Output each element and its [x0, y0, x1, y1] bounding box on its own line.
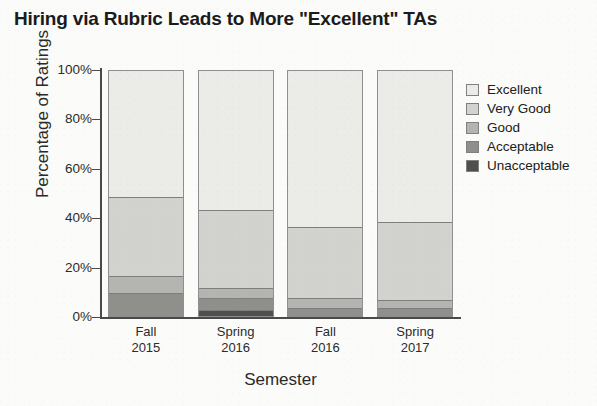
bar-segment-acceptable[interactable]: [109, 294, 183, 316]
bar-segment-very-good[interactable]: [378, 223, 452, 301]
bar-segment-excellent[interactable]: [109, 71, 183, 198]
bar-segment-excellent[interactable]: [288, 71, 362, 228]
x-axis-line: [100, 317, 461, 319]
bar-segment-good[interactable]: [109, 277, 183, 294]
stacked-bar[interactable]: [198, 70, 274, 317]
bar-segment-acceptable[interactable]: [288, 309, 362, 316]
legend-label: Acceptable: [487, 139, 554, 154]
bar-segment-very-good[interactable]: [288, 228, 362, 299]
y-axis-tick-label: 40%: [46, 210, 92, 225]
y-axis-tick-label: 100%: [46, 62, 92, 77]
bar-segment-acceptable[interactable]: [378, 309, 452, 316]
bar-segment-good[interactable]: [288, 299, 362, 309]
legend-swatch-unacceptable: [466, 160, 479, 172]
legend-label: Excellent: [487, 82, 542, 97]
legend-item[interactable]: Excellent: [466, 80, 570, 99]
y-axis-tick: [92, 268, 100, 269]
chart-title: Hiring via Rubric Leads to More "Excelle…: [14, 8, 437, 30]
x-axis-tick-label: Spring2017: [360, 324, 470, 356]
y-axis-tick: [92, 317, 100, 318]
bar-segment-unacceptable[interactable]: [199, 311, 273, 316]
plot-area: [101, 70, 460, 317]
legend-swatch-acceptable: [466, 141, 479, 153]
legend-swatch-very-good: [466, 103, 479, 115]
y-axis-tick: [92, 70, 100, 71]
legend-item[interactable]: Acceptable: [466, 137, 570, 156]
chart-figure: Hiring via Rubric Leads to More "Excelle…: [0, 0, 597, 406]
bar-segment-very-good[interactable]: [199, 211, 273, 289]
legend: ExcellentVery GoodGoodAcceptableUnaccept…: [466, 80, 570, 175]
y-axis-tick-label: 0%: [46, 309, 92, 324]
y-axis-tick: [92, 119, 100, 120]
y-axis-tick-label: 80%: [46, 111, 92, 126]
legend-item[interactable]: Unacceptable: [466, 156, 570, 175]
legend-label: Good: [487, 120, 520, 135]
stacked-bar[interactable]: [377, 70, 453, 317]
y-axis-tick-label: 20%: [46, 260, 92, 275]
bar-segment-good[interactable]: [199, 289, 273, 299]
legend-label: Unacceptable: [487, 158, 570, 173]
legend-item[interactable]: Good: [466, 118, 570, 137]
x-axis-title: Semester: [101, 370, 460, 390]
bar-segment-very-good[interactable]: [109, 198, 183, 276]
legend-label: Very Good: [487, 101, 551, 116]
bar-segment-good[interactable]: [378, 301, 452, 308]
legend-swatch-good: [466, 122, 479, 134]
bar-segment-acceptable[interactable]: [199, 299, 273, 311]
y-axis-tick-label: 60%: [46, 161, 92, 176]
legend-swatch-excellent: [466, 84, 479, 96]
bar-segment-excellent[interactable]: [378, 71, 452, 223]
legend-item[interactable]: Very Good: [466, 99, 570, 118]
bar-segment-excellent[interactable]: [199, 71, 273, 211]
y-axis-tick: [92, 218, 100, 219]
y-axis-tick: [92, 169, 100, 170]
stacked-bar[interactable]: [108, 70, 184, 317]
stacked-bar[interactable]: [287, 70, 363, 317]
